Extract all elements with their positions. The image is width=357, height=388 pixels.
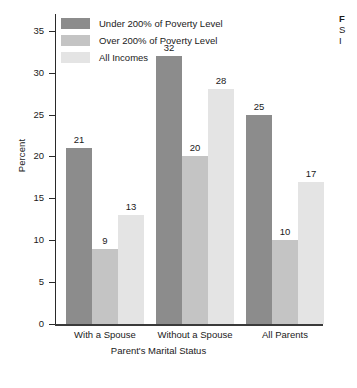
y-axis-tick — [49, 324, 55, 325]
bar — [298, 182, 324, 324]
bar — [118, 215, 144, 324]
side-caption-line-2: S — [339, 24, 357, 35]
legend-item: Over 200% of Poverty Level — [61, 33, 223, 48]
y-axis-tick-label: 5 — [18, 277, 44, 286]
bar-value-label: 17 — [294, 169, 328, 179]
bar-value-label: 20 — [178, 143, 212, 153]
bar-value-label: 9 — [88, 236, 122, 246]
bar — [272, 240, 298, 324]
legend-label: Over 200% of Poverty Level — [99, 35, 217, 46]
y-axis-tick-label: 30 — [18, 68, 44, 77]
side-caption: F S I — [339, 13, 357, 46]
legend-item: Under 200% of Poverty Level — [61, 16, 223, 31]
bar-value-label: 10 — [268, 227, 302, 237]
y-axis-tick-label: 35 — [18, 26, 44, 35]
y-axis-tick-label: 25 — [18, 110, 44, 119]
bar — [92, 249, 118, 324]
bar — [208, 89, 234, 324]
legend-label: All Incomes — [99, 52, 148, 63]
side-caption-line-1: F — [339, 13, 357, 24]
x-axis-line — [55, 324, 323, 326]
legend-swatch — [61, 52, 90, 63]
bar — [182, 156, 208, 324]
x-axis-label: Parent's Marital Status — [0, 345, 357, 356]
bar-value-label: 25 — [242, 102, 276, 112]
y-axis-tick-label: 20 — [18, 151, 44, 160]
chart-figure: Percent 05101520253035 21913322028251017… — [0, 0, 357, 388]
bar-value-label: 13 — [114, 202, 148, 212]
y-axis-tick-label: 10 — [18, 235, 44, 244]
bar — [156, 56, 182, 324]
x-axis-tick-label: All Parents — [225, 329, 345, 340]
legend-label: Under 200% of Poverty Level — [99, 18, 223, 29]
chart-legend: Under 200% of Poverty LevelOver 200% of … — [61, 16, 223, 67]
bar-value-label: 28 — [204, 76, 238, 86]
side-caption-line-3: I — [339, 35, 357, 46]
bar-value-label: 21 — [62, 135, 96, 145]
legend-swatch — [61, 18, 90, 29]
y-axis-tick-label: 15 — [18, 193, 44, 202]
y-axis-tick-label: 0 — [18, 319, 44, 328]
legend-item: All Incomes — [61, 50, 223, 65]
bar — [246, 115, 272, 324]
legend-swatch — [61, 35, 90, 46]
